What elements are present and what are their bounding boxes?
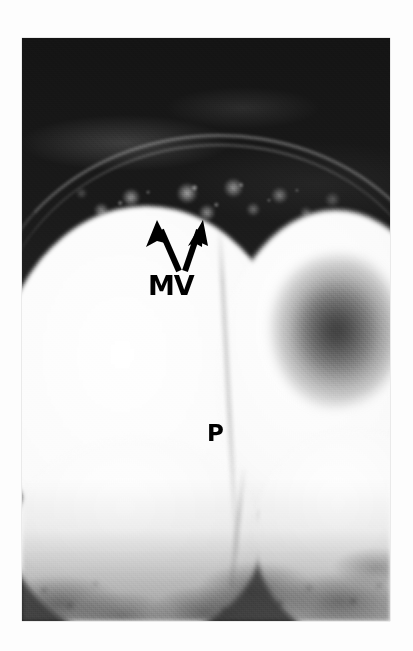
electron-micrograph-plate	[22, 38, 390, 621]
figure-page: MV P	[0, 0, 413, 651]
label-p: P	[207, 422, 223, 445]
granular-cytoplasm-speckle	[22, 511, 390, 621]
label-mv: MV	[148, 272, 194, 299]
dark-inclusion-core	[298, 288, 374, 372]
